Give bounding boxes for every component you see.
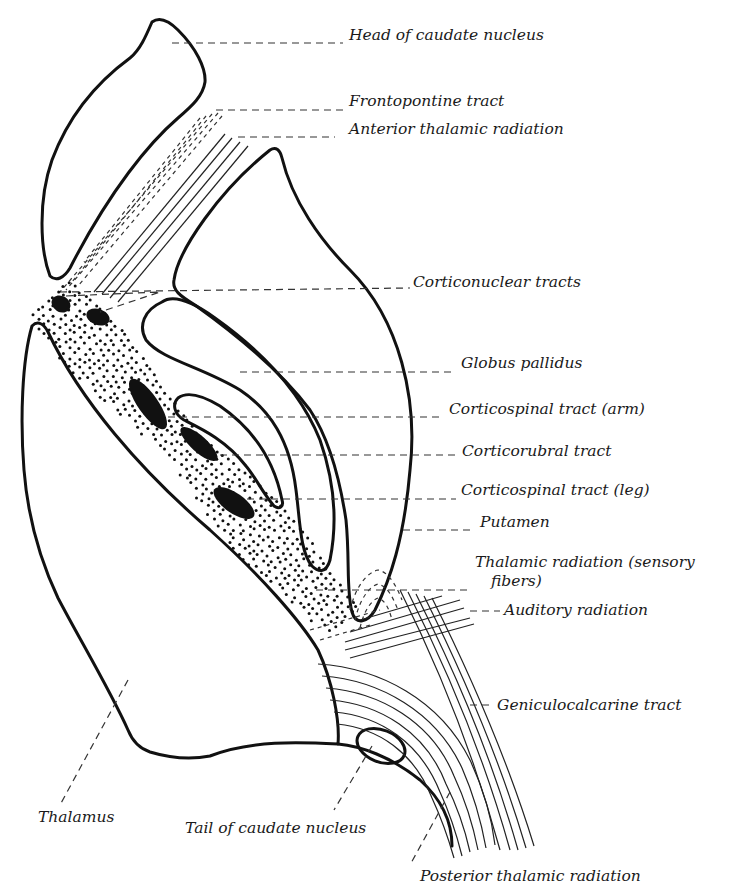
corticospinal-arm-blob [123, 374, 174, 435]
label-anterior-thalamic-radiation: Anterior thalamic radiation [347, 120, 564, 138]
label-thalamic-radiation-line2: fibers) [490, 572, 542, 590]
label-frontopontine-tract: Frontopontine tract [348, 92, 505, 110]
auditory-fibers [345, 596, 474, 658]
geniculocalcarine-fibers [400, 590, 534, 850]
frontopontine-fibers [60, 113, 222, 292]
label-thalamus: Thalamus [38, 808, 114, 826]
label-posterior-thalamic-radiation: Posterior thalamic radiation [419, 867, 641, 885]
label-corticonuclear-tracts: Corticonuclear tracts [413, 273, 581, 291]
label-auditory-radiation: Auditory radiation [502, 601, 648, 619]
label-putamen: Putamen [479, 513, 550, 531]
label-head-of-caudate: Head of caudate nucleus [348, 26, 544, 44]
label-corticospinal-leg: Corticospinal tract (leg) [461, 481, 650, 499]
label-thalamic-radiation-line1: Thalamic radiation (sensory [475, 553, 695, 571]
internal-capsule-diagram: Head of caudate nucleus Frontopontine tr… [0, 0, 734, 890]
posterior-limb-stipple [32, 281, 358, 632]
label-tail-of-caudate: Tail of caudate nucleus [185, 819, 366, 837]
label-corticospinal-arm: Corticospinal tract (arm) [449, 400, 645, 418]
putamen-shape [174, 148, 412, 620]
label-globus-pallidus: Globus pallidus [461, 354, 582, 372]
label-corticorubral-tract: Corticorubral tract [462, 442, 612, 460]
label-geniculocalcarine-tract: Geniculocalcarine tract [497, 696, 682, 714]
anterior-thalamic-fibers [94, 134, 248, 302]
head-of-caudate-shape [42, 20, 205, 279]
